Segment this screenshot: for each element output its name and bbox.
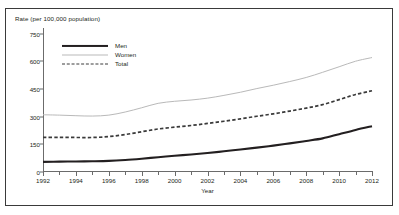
x-tick-label: 2004	[234, 177, 248, 184]
x-tick-label: 2006	[266, 177, 280, 184]
series-line-men	[43, 126, 372, 162]
y-tick-mark	[40, 116, 43, 117]
x-tick-mark	[290, 172, 291, 175]
x-tick-mark	[224, 172, 225, 175]
x-tick-mark	[43, 172, 44, 176]
x-tick-mark	[372, 172, 373, 176]
x-tick-mark	[158, 172, 159, 175]
legend-swatch-women-icon	[62, 50, 108, 59]
x-tick-mark	[92, 172, 93, 175]
y-tick-label: 450	[30, 85, 40, 92]
x-tick-mark	[59, 172, 60, 175]
y-tick-label: 150	[30, 141, 40, 148]
y-tick-label: 300	[30, 113, 40, 120]
x-tick-mark	[109, 172, 110, 176]
legend-item-men: Men	[62, 41, 136, 50]
x-tick-label: 2000	[168, 177, 182, 184]
x-tick-label: 2002	[201, 177, 215, 184]
x-tick-mark	[142, 172, 143, 176]
x-tick-mark	[323, 172, 324, 175]
x-tick-mark	[339, 172, 340, 176]
legend-label-women: Women	[115, 51, 136, 58]
legend-item-women: Women	[62, 50, 136, 59]
x-tick-label: 1998	[135, 177, 149, 184]
x-tick-mark	[356, 172, 357, 175]
legend-item-total: Total	[62, 59, 136, 68]
x-tick-mark	[240, 172, 241, 176]
y-tick-label: 750	[30, 30, 40, 37]
x-tick-label: 2012	[365, 177, 379, 184]
x-tick-mark	[208, 172, 209, 176]
x-tick-label: 2010	[332, 177, 346, 184]
y-tick-mark	[40, 144, 43, 145]
y-tick-label: 600	[30, 58, 40, 65]
x-tick-mark	[306, 172, 307, 176]
cut-off-title	[10, 0, 390, 2]
x-tick-mark	[257, 172, 258, 175]
x-tick-label: 1996	[102, 177, 116, 184]
x-tick-mark	[273, 172, 274, 176]
x-axis-title: Year	[43, 187, 372, 194]
x-tick-label: 1994	[69, 177, 83, 184]
legend-swatch-total-icon	[62, 59, 108, 68]
y-tick-mark	[40, 88, 43, 89]
legend-label-total: Total	[115, 60, 128, 67]
y-axis-title: Rate (per 100,000 population)	[15, 15, 100, 22]
y-tick-mark	[40, 61, 43, 62]
x-tick-mark	[191, 172, 192, 175]
legend: Men Women Total	[62, 41, 136, 68]
x-tick-mark	[76, 172, 77, 176]
x-tick-label: 2008	[299, 177, 313, 184]
y-tick-label: 0	[37, 169, 40, 176]
y-tick-mark	[40, 33, 43, 34]
legend-label-men: Men	[115, 42, 127, 49]
x-tick-mark	[125, 172, 126, 175]
chart-figure: Rate (per 100,000 population) Year 01503…	[0, 0, 399, 215]
legend-swatch-men-icon	[62, 41, 108, 50]
x-tick-label: 1992	[36, 177, 50, 184]
x-tick-mark	[175, 172, 176, 176]
